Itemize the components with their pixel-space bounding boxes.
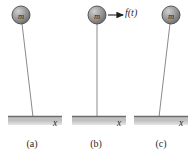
panel-b: m x (b) <box>64 0 128 161</box>
displacement-label: x <box>52 118 58 128</box>
panel-c-diagram: m x <box>129 0 193 136</box>
pendulum-rod <box>159 15 171 117</box>
panel-a: m x (a) <box>0 0 64 161</box>
panel-caption-c: (c) <box>129 138 193 149</box>
panel-a-diagram: m x <box>0 0 64 136</box>
panel-caption-b: (b) <box>64 138 128 149</box>
panel-c: m x (c) <box>129 0 193 161</box>
mass-label: m <box>94 11 100 21</box>
force-function-label: f(t) <box>125 7 137 18</box>
displacement-label: x <box>178 118 184 128</box>
panel-b-diagram: m x <box>64 0 128 136</box>
inverted-pendulum-figure: m x (a) <box>0 0 193 161</box>
mass-label: m <box>18 11 24 21</box>
mass-label: m <box>168 11 174 21</box>
pendulum-rod <box>21 15 33 117</box>
displacement-label: x <box>116 118 122 128</box>
panel-caption-a: (a) <box>0 138 64 149</box>
